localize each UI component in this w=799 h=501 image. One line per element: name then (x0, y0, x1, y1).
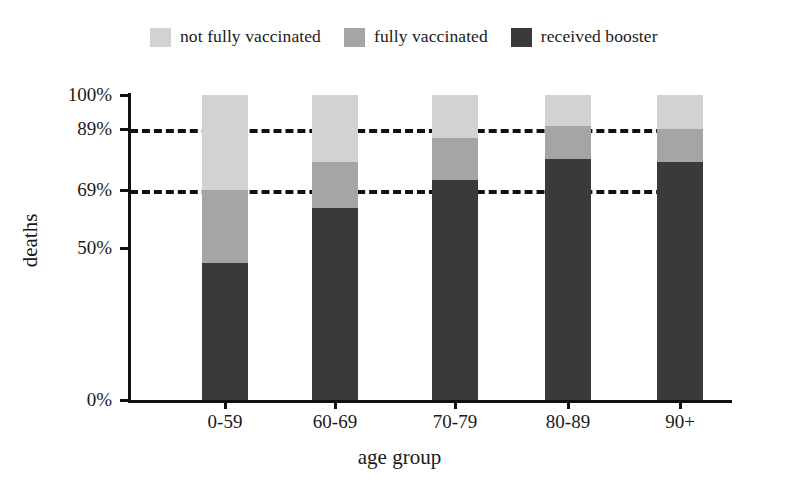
x-tick-label: 70-79 (395, 412, 515, 431)
legend-label: not fully vaccinated (180, 28, 321, 46)
x-axis-title: age group (0, 447, 799, 468)
x-tick-mark (334, 400, 337, 409)
bar-group[interactable] (545, 95, 591, 400)
y-tick-label: 89% (0, 119, 112, 138)
bar-group[interactable] (657, 95, 703, 400)
legend-swatch-icon (344, 28, 365, 47)
bar-segment (432, 138, 478, 181)
x-tick-mark (454, 400, 457, 409)
y-tick-mark (120, 189, 129, 192)
bar-segment (545, 95, 591, 126)
x-axis-line (128, 400, 732, 403)
bar-segment (432, 95, 478, 138)
bar-segment (545, 126, 591, 160)
chart-legend: not fully vaccinatedfully vaccinatedrece… (150, 24, 671, 50)
y-tick-mark (120, 128, 129, 131)
legend-item[interactable]: fully vaccinated (344, 28, 488, 47)
bar-segment (202, 190, 248, 263)
legend-label: received booster (541, 28, 658, 46)
x-tick-mark (567, 400, 570, 409)
legend-item[interactable]: not fully vaccinated (150, 28, 321, 47)
bar-stack (432, 95, 478, 400)
y-tick-mark (120, 399, 129, 402)
bar-group[interactable] (432, 95, 478, 400)
bar-segment (202, 263, 248, 400)
bar-stack (202, 95, 248, 400)
bar-segment (657, 129, 703, 163)
x-tick-label: 90+ (620, 412, 740, 431)
bar-stack (312, 95, 358, 400)
bar-segment (657, 95, 703, 129)
bar-segment (312, 95, 358, 162)
x-tick-label: 80-89 (508, 412, 628, 431)
bar-stack (545, 95, 591, 400)
bar-stack (657, 95, 703, 400)
bar-segment (202, 95, 248, 190)
legend-swatch-icon (511, 28, 532, 47)
x-tick-mark (224, 400, 227, 409)
x-tick-label: 60-69 (275, 412, 395, 431)
y-tick-label: 0% (0, 390, 112, 409)
x-tick-label: 0-59 (165, 412, 285, 431)
legend-item[interactable]: received booster (511, 28, 658, 47)
y-tick-label: 69% (0, 180, 112, 199)
y-axis-title: deaths (20, 181, 41, 301)
stacked-bar-chart: not fully vaccinatedfully vaccinatedrece… (0, 0, 799, 501)
bar-segment (657, 162, 703, 400)
plot-area (130, 95, 730, 400)
bar-segment (312, 208, 358, 400)
bar-segment (312, 162, 358, 208)
bar-segment (432, 180, 478, 400)
y-tick-mark (120, 247, 129, 250)
bar-segment (545, 159, 591, 400)
bar-group[interactable] (312, 95, 358, 400)
y-tick-label: 100% (0, 85, 112, 104)
bar-group[interactable] (202, 95, 248, 400)
legend-label: fully vaccinated (374, 28, 488, 46)
y-tick-mark (120, 94, 129, 97)
legend-swatch-icon (150, 28, 171, 47)
x-tick-mark (679, 400, 682, 409)
